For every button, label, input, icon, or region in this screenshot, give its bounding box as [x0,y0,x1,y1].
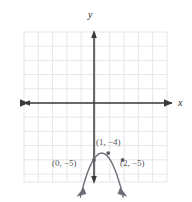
left-point-label: (0, −5) [52,159,77,168]
right-point-label: (2, −5) [120,159,145,168]
y-axis-label: y [88,10,92,20]
vertex-point-label: (1, −4) [96,138,121,147]
curve-right-arrow [118,188,128,197]
x-axis-label: x [178,98,182,108]
graph-figure: y x (1, −4) (0, −5) (2, −5) [0,0,192,202]
marker-point-vertex [106,151,110,155]
marker-point-0-minus5 [92,158,96,162]
curve-left-arrow [77,188,87,197]
coordinate-plane-svg [0,0,192,202]
